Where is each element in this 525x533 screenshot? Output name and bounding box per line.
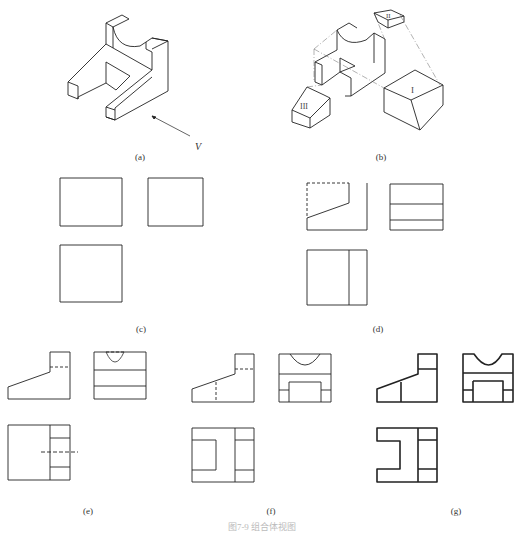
panel-b-phantom-lines xyxy=(307,13,440,88)
panel-d-label: (d) xyxy=(373,324,384,334)
panel-g-label: (g) xyxy=(451,506,462,516)
part-iii-label: III xyxy=(300,102,308,111)
panel-b-label: (b) xyxy=(376,152,387,162)
panel-c-boxes xyxy=(60,178,203,302)
panel-d-views xyxy=(307,183,443,305)
panel-b-exploded xyxy=(292,10,443,130)
figure-caption: 图7-9 组合体视图 xyxy=(228,520,296,533)
panel-f-views xyxy=(192,354,331,482)
panel-g-views xyxy=(377,354,513,482)
panel-c-label: (c) xyxy=(136,324,146,334)
panel-a-label: (a) xyxy=(135,152,145,162)
part-ii-label: II xyxy=(386,12,391,20)
panel-a-isometric xyxy=(68,15,190,136)
panel-e-label: (e) xyxy=(83,506,93,516)
panel-f-label: (f) xyxy=(267,506,276,516)
view-direction-label: V xyxy=(195,141,203,152)
drawing-canvas: V III I II xyxy=(0,0,525,533)
part-i-label: I xyxy=(411,85,414,95)
panel-e-views xyxy=(8,352,146,480)
